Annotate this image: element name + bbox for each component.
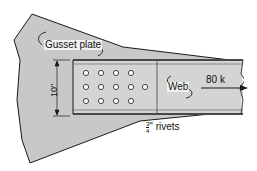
gusset-plate-label: Gusset plate bbox=[44, 40, 102, 50]
rivets-text: " rivets bbox=[149, 121, 179, 132]
load-label: 80 k bbox=[205, 75, 226, 85]
dimension-label: 10" bbox=[50, 83, 59, 98]
gusset-connection-diagram bbox=[0, 0, 257, 171]
rivets-label: 3 4 " rivets bbox=[145, 121, 181, 134]
web-label: Web bbox=[167, 82, 189, 92]
